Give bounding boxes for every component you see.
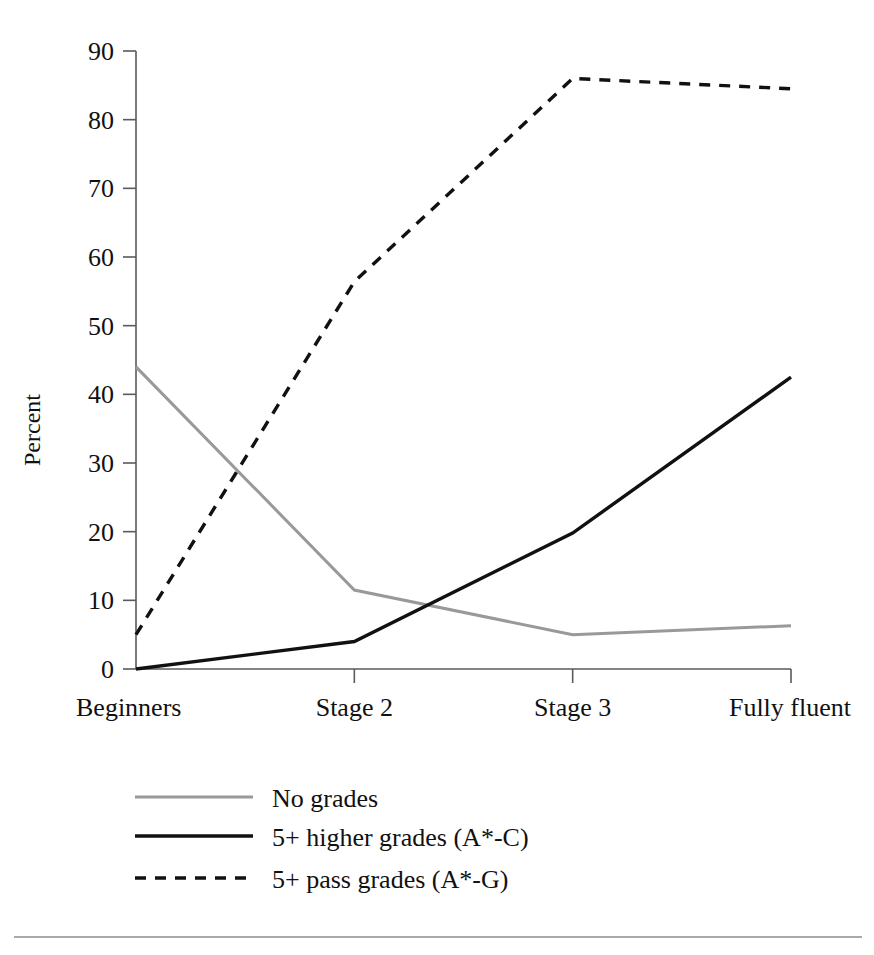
legend-label-0: No grades xyxy=(272,784,378,813)
line-chart: 0102030405060708090 BeginnersStage 2Stag… xyxy=(0,0,874,955)
y-axis-tick-label: 70 xyxy=(88,174,114,203)
chart-background xyxy=(0,0,874,955)
x-axis-category-label: Stage 2 xyxy=(316,693,393,722)
y-axis-tick-label: 40 xyxy=(88,380,114,409)
y-axis-tick-label: 60 xyxy=(88,243,114,272)
x-axis-category-label: Stage 3 xyxy=(534,693,611,722)
figure-container: 0102030405060708090 BeginnersStage 2Stag… xyxy=(0,0,874,955)
y-axis-tick-label: 0 xyxy=(101,655,114,684)
y-axis-tick-label: 80 xyxy=(88,106,114,135)
x-axis-category-label: Fully fluent xyxy=(729,693,852,722)
x-axis-category-label: Beginners xyxy=(76,693,181,722)
y-axis-title: Percent xyxy=(19,394,45,466)
y-axis-tick-label: 20 xyxy=(88,518,114,547)
y-axis-tick-label: 90 xyxy=(88,37,114,66)
y-axis-tick-label: 10 xyxy=(88,586,114,615)
legend-label-2: 5+ pass grades (A*-G) xyxy=(272,865,508,894)
y-axis-tick-label: 30 xyxy=(88,449,114,478)
legend-label-1: 5+ higher grades (A*-C) xyxy=(272,823,529,852)
y-axis-tick-label: 50 xyxy=(88,312,114,341)
